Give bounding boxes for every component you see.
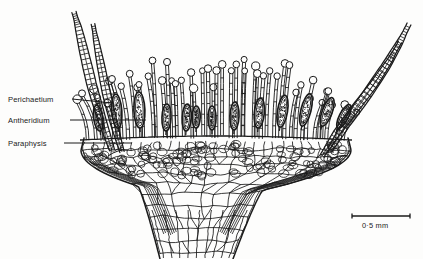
paraphysis-tip bbox=[118, 83, 124, 90]
paraphysis-tip bbox=[204, 65, 211, 73]
paraphysis-tip bbox=[241, 56, 247, 62]
label-paraphysis: Paraphysis bbox=[8, 139, 47, 148]
paraphysis-tip bbox=[187, 69, 194, 77]
label-perichaetium: Perichaetium bbox=[8, 95, 54, 104]
paraphysis-tip bbox=[233, 61, 240, 68]
paraphysis-tip bbox=[213, 67, 220, 75]
paraphysis-tip bbox=[145, 73, 151, 80]
paraphysis-tip bbox=[242, 68, 248, 74]
illustration-canvas bbox=[0, 0, 423, 259]
botanical-figure: PerichaetiumAntheridiumParaphysis 0·5 mm bbox=[0, 0, 423, 259]
paraphysis-tip bbox=[260, 73, 266, 79]
paraphysis-tip bbox=[267, 68, 273, 75]
paraphysis-tip bbox=[164, 58, 171, 65]
paraphysis-tip bbox=[325, 88, 332, 95]
scale-bar-caption: 0·5 mm bbox=[362, 221, 388, 230]
paraphysis-tip bbox=[210, 84, 217, 91]
paraphysis-tip bbox=[228, 68, 234, 74]
paraphysis-tip bbox=[172, 81, 178, 87]
paraphysis-tip bbox=[298, 82, 304, 89]
paraphysis-tip bbox=[218, 61, 226, 69]
paraphysis-tip bbox=[309, 76, 317, 84]
paraphysis-tip bbox=[158, 77, 166, 85]
paraphysis-tip bbox=[286, 62, 293, 69]
paraphysis-tip bbox=[109, 76, 116, 83]
paraphysis-tip bbox=[149, 57, 156, 64]
paraphysis-tip bbox=[79, 90, 86, 97]
paraphysis-tip bbox=[178, 77, 184, 83]
paraphysis-tip bbox=[126, 70, 133, 77]
paraphysis-tip bbox=[274, 73, 280, 80]
label-antheridium: Antheridium bbox=[8, 116, 50, 125]
paraphysis-tip bbox=[136, 82, 142, 88]
paraphysis-tip bbox=[189, 84, 197, 93]
paraphysis-tip bbox=[252, 62, 260, 70]
